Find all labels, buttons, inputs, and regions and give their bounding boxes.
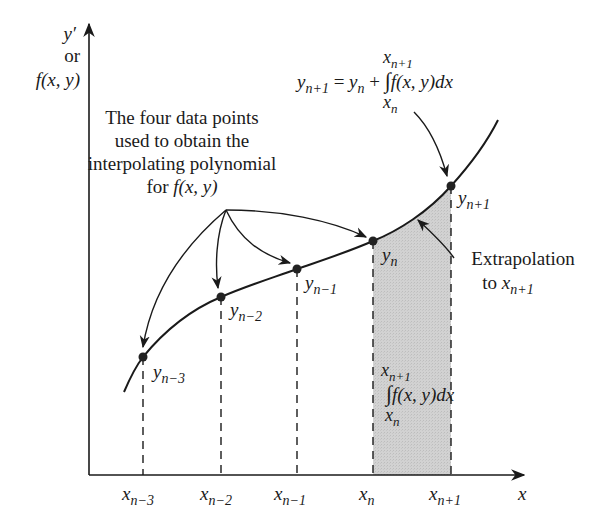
- point-y-n-1: [293, 265, 302, 274]
- extrapolation-line-2: to xn+1: [482, 272, 533, 297]
- formula-top-main: yn+1 = yn + ∫f(x, y)dx: [295, 68, 454, 96]
- x-tick-labels: xn−3 xn−2 xn−1 xn xn+1: [121, 483, 461, 508]
- formula-area-main: ∫f(x, y)dx: [384, 381, 455, 407]
- x-axis-label: x: [517, 483, 527, 504]
- point-y-n+1: [447, 182, 456, 191]
- annotation-line-4: for f(x, y): [146, 176, 217, 198]
- arrow-to-y-n-1: [226, 210, 290, 263]
- point-y-n-3: [139, 353, 148, 362]
- y-axis-label-or: or: [64, 45, 81, 66]
- tick-x-n+1: xn+1: [428, 483, 461, 508]
- y-axis-label-fxy: f(x, y): [36, 69, 80, 91]
- annotation-data-points: The four data points used to obtain the …: [88, 107, 276, 198]
- arrow-to-y-n-3: [143, 210, 226, 347]
- y-axis-label-yprime: y′: [61, 23, 76, 44]
- formula-top-lower-limit: xn: [382, 92, 398, 116]
- arrow-to-y-n-2: [217, 210, 226, 288]
- tick-x-n: xn: [358, 483, 374, 508]
- label-y-n+1: yn+1: [456, 187, 490, 212]
- diagram-canvas: y′ or f(x, y) x xn−3 xn−2 xn−1 xn xn+1 y…: [0, 0, 592, 523]
- label-y-n-3: yn−3: [151, 361, 185, 386]
- arrow-formula-to-y-n+1: [414, 112, 447, 176]
- point-y-n-2: [217, 293, 226, 302]
- annotation-extrapolation: Extrapolation to xn+1: [471, 248, 575, 297]
- point-y-n: [369, 237, 378, 246]
- tick-x-n-2: xn−2: [199, 483, 232, 508]
- label-y-n-1: yn−1: [303, 272, 337, 297]
- integral-shaded-area: [373, 186, 451, 475]
- annotation-line-2: used to obtain the: [115, 130, 250, 151]
- annotation-line-3: interpolating polynomial: [88, 153, 276, 174]
- annotation-line-1: The four data points: [105, 107, 259, 128]
- label-y-n-2: yn−2: [228, 299, 262, 324]
- arrow-to-y-n: [226, 210, 366, 237]
- tick-x-n-3: xn−3: [121, 483, 154, 508]
- tick-x-n-1: xn−1: [273, 483, 306, 508]
- extrapolation-line-1: Extrapolation: [471, 248, 575, 269]
- formula-top: xn+1 yn+1 = yn + ∫f(x, y)dx xn: [295, 47, 454, 116]
